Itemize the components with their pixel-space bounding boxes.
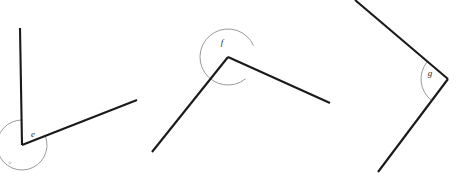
- angle-e: e: [0, 28, 137, 170]
- angle-g-upper-ray: [355, 0, 448, 79]
- angle-f-label: f: [221, 37, 225, 47]
- angle-f-left-ray: [152, 57, 228, 152]
- angle-e-label: e: [31, 129, 35, 139]
- angle-diagram-canvas: efg: [0, 0, 459, 176]
- angle-f: f: [152, 29, 330, 152]
- speck-bottom-left: [8, 161, 11, 164]
- angle-g-label: g: [428, 68, 433, 78]
- figures-group: efg: [0, 0, 448, 172]
- angle-g-lower-ray: [378, 79, 448, 172]
- specks-group: [8, 161, 11, 164]
- angle-e-upper-ray: [20, 28, 22, 145]
- angle-g: g: [355, 0, 448, 172]
- angle-e-right-ray: [22, 100, 137, 145]
- angles-figure: efg: [0, 0, 459, 176]
